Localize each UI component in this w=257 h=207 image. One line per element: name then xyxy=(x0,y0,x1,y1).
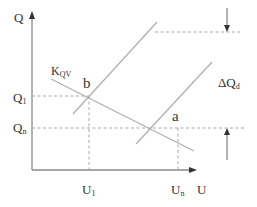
diagram-canvas: Q U KQV b a Q1 Qn U1 Un ΔQd xyxy=(0,0,257,207)
supply-curve-lower xyxy=(136,62,212,144)
supply-curve-upper xyxy=(73,22,157,114)
un-tick-label: Un xyxy=(171,182,184,198)
delta-qd-label: ΔQd xyxy=(218,75,240,91)
point-a-label: a xyxy=(172,108,179,124)
point-b-label: b xyxy=(83,75,91,91)
arrow-down-icon xyxy=(224,25,230,32)
qn-tick-label: Qn xyxy=(13,120,26,136)
x-axis-label: U xyxy=(197,182,207,197)
y-axis-arrow-icon xyxy=(29,11,35,19)
q1-tick-label: Q1 xyxy=(13,90,26,106)
u1-tick-label: U1 xyxy=(82,182,95,198)
x-axis-arrow-icon xyxy=(189,167,197,173)
arrow-up-icon xyxy=(224,128,230,135)
y-axis-label: Q xyxy=(14,10,24,25)
demand-curve-label: KQV xyxy=(51,64,71,79)
